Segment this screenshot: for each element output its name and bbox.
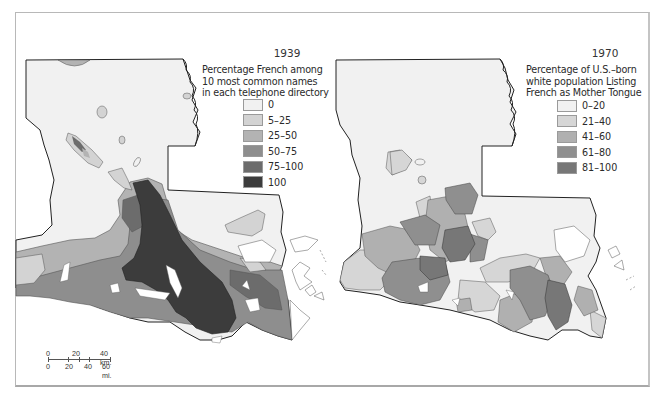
legend-label: 41–60 [582,131,611,142]
legend-swatch [243,99,263,111]
map-1939-subtitle: Percentage French among 10 most common n… [202,64,332,99]
legend-item: 25–50 [243,128,303,144]
legend-label: 25–50 [268,130,297,141]
legend-item: 0–20 [557,98,617,114]
legend-item: 5–25 [243,113,303,129]
scale-mi-label: 0 [46,362,50,371]
legend-swatch [557,162,577,174]
legend-swatch [557,146,577,158]
scale-mi-label: 40 [84,362,92,371]
legend-label: 21–40 [582,116,611,127]
legend-label: 50–75 [268,146,297,157]
legend-label: 0 [268,99,274,110]
legend-label: 81–100 [582,162,617,173]
scale-bar: 0 20 40 km. 0 20 40 60 mi. [46,349,116,379]
legend-item: 81–100 [557,160,617,176]
legend-swatch [557,115,577,127]
legend-swatch [557,131,577,143]
map-1939-year: 1939 [252,47,322,59]
legend-item: 100 [243,175,303,191]
map-1970-subtitle-line: white population Listing [526,76,656,88]
legend-label: 5–25 [268,115,291,126]
legend-item: 50–75 [243,144,303,160]
legend-label: 61–80 [582,147,611,158]
scale-mi-label: 20 [65,362,73,371]
legend-item: 61–80 [557,145,617,161]
scale-mi-label: 60 mi. [102,362,116,380]
map-1970-year: 1970 [570,47,640,59]
legend-item: 75–100 [243,159,303,175]
legend-swatch [243,130,263,142]
legend-swatch [243,161,263,173]
scale-tick [79,357,80,362]
map-1970-subtitle-line: Percentage of U.S.–born [526,64,656,76]
map-1970-legend: 0–20 21–40 41–60 61–80 81–100 [557,98,617,176]
legend-item: 21–40 [557,114,617,130]
map-1939-legend: 0 5–25 25–50 50–75 75–100 100 [243,97,303,190]
legend-item: 0 [243,97,303,113]
map-1939-subtitle-line: 10 most common names [202,76,332,88]
legend-label: 0–20 [582,100,605,111]
legend-swatch [557,100,577,112]
legend-label: 75–100 [268,161,303,172]
map-1939-subtitle-line: Percentage French among [202,64,332,76]
map-1970-subtitle: Percentage of U.S.–born white population… [526,64,656,99]
legend-swatch [243,176,263,188]
legend-item: 41–60 [557,129,617,145]
legend-swatch [243,145,263,157]
legend-label: 100 [268,177,286,188]
legend-swatch [243,114,263,126]
